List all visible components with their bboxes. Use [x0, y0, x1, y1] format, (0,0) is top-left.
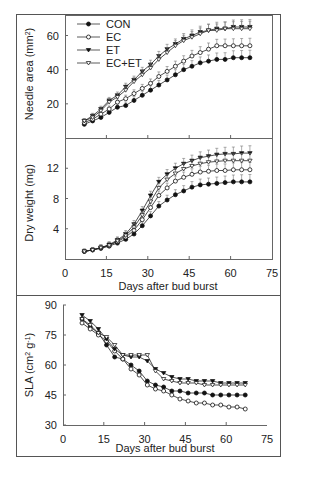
marker-ec: [137, 373, 141, 377]
series-line: [84, 182, 250, 252]
marker-con: [227, 393, 231, 397]
marker-ec: [129, 367, 133, 371]
x-tick-label: 75: [261, 433, 273, 445]
legend-label: EC+ET: [106, 57, 142, 69]
marker-ec: [173, 179, 177, 183]
x-tick-label: 15: [98, 433, 110, 445]
marker-con: [153, 383, 157, 387]
marker-con: [182, 189, 186, 193]
y-tick-label: 90: [45, 299, 57, 311]
marker-con: [165, 198, 169, 202]
marker-con: [202, 391, 206, 395]
x-tick-label: 45: [183, 267, 195, 279]
plot-area-frame: [66, 16, 273, 139]
x-tick-label: 60: [224, 267, 236, 279]
marker-ec: [107, 107, 111, 111]
marker-con: [124, 104, 128, 108]
marker-con: [240, 180, 244, 184]
marker-con: [223, 181, 227, 185]
marker-ec: [145, 383, 149, 387]
marker-con: [157, 204, 161, 208]
marker-ec: [115, 100, 119, 104]
marker-con: [173, 73, 177, 77]
panel-top: 204060: [47, 16, 273, 139]
marker-ec: [215, 44, 219, 48]
marker-ec: [194, 401, 198, 405]
marker-con: [207, 182, 211, 186]
marker-con: [149, 214, 153, 218]
marker-con: [165, 78, 169, 82]
marker-con: [219, 393, 223, 397]
marker-con: [162, 385, 166, 389]
marker-ec-et: [181, 168, 185, 172]
marker-con: [223, 57, 227, 61]
marker-ec: [157, 193, 161, 197]
marker-con: [87, 22, 91, 26]
marker-con: [243, 393, 247, 397]
marker-ec: [165, 186, 169, 190]
x-tick-label: 75: [266, 267, 278, 279]
legend-label: ET: [106, 44, 120, 56]
series-ec: [80, 321, 247, 411]
marker-con: [194, 391, 198, 395]
y-tick-label: 60: [45, 359, 57, 371]
marker-ec: [235, 405, 239, 409]
marker-ec: [190, 172, 194, 176]
marker-con: [129, 363, 133, 367]
marker-con: [178, 389, 182, 393]
y-tick-label: 75: [45, 329, 57, 341]
marker-ec: [162, 389, 166, 393]
y-tick-label: 4: [53, 223, 59, 235]
marker-con: [240, 56, 244, 60]
marker-con: [198, 183, 202, 187]
x-tick-label: 0: [60, 433, 66, 445]
legend-label: EC: [106, 31, 121, 43]
series-ec-et: [80, 318, 248, 388]
marker-ec: [215, 169, 219, 173]
legend-item-et: ET: [77, 44, 120, 56]
panel-middle: 481201530456075: [47, 139, 278, 280]
marker-con: [231, 56, 235, 60]
marker-con: [190, 185, 194, 189]
marker-ec: [227, 405, 231, 409]
marker-con: [211, 393, 215, 397]
legend-item-con: CON: [77, 18, 131, 30]
series-ec-et: [82, 153, 252, 253]
marker-con: [182, 68, 186, 72]
marker-ec: [153, 387, 157, 391]
marker-ec: [240, 168, 244, 172]
marker-con: [186, 391, 190, 395]
marker-ec: [157, 75, 161, 79]
marker-ec: [240, 44, 244, 48]
y-tick-label: 20: [47, 98, 59, 110]
marker-con: [207, 59, 211, 63]
marker-ec-et: [115, 96, 119, 100]
y-tick-label: 45: [45, 389, 57, 401]
marker-ec: [182, 59, 186, 63]
marker-ec: [198, 51, 202, 55]
marker-con: [132, 98, 136, 102]
marker-ec: [140, 86, 144, 90]
marker-ec: [165, 69, 169, 73]
x-tick-label: 0: [62, 267, 68, 279]
marker-con: [235, 393, 239, 397]
marker-con: [248, 180, 252, 184]
marker-ec-et: [140, 214, 144, 218]
marker-ec: [170, 393, 174, 397]
legend-item-ec-et: EC+ET: [77, 57, 142, 69]
y-axis-label-sla: SLA (cm2 g-1): [23, 333, 35, 398]
legend-label: CON: [106, 18, 131, 30]
marker-ec: [231, 168, 235, 172]
marker-ec: [231, 44, 235, 48]
marker-ec: [186, 399, 190, 403]
marker-con: [140, 224, 144, 228]
marker-con: [198, 61, 202, 65]
marker-con: [248, 56, 252, 60]
marker-ec: [207, 169, 211, 173]
x-tick-label: 30: [142, 267, 154, 279]
marker-con: [173, 193, 177, 197]
marker-ec: [248, 44, 252, 48]
marker-ec: [207, 47, 211, 51]
marker-et: [148, 194, 152, 198]
y-axis-label-dry-weight: Dry weight (mg): [23, 164, 35, 242]
